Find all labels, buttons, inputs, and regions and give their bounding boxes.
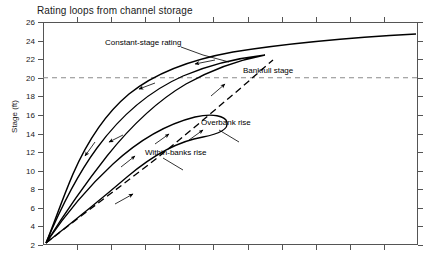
y-axis-tick-right bbox=[418, 134, 423, 135]
x-axis-tick bbox=[316, 245, 317, 250]
x-axis-tick bbox=[213, 245, 214, 250]
y-axis-tick-right bbox=[418, 152, 423, 153]
x-axis-tick bbox=[282, 245, 283, 250]
y-axis-tick-label: 26 bbox=[13, 18, 35, 27]
annotation-within-banks-rise: Within-banks rise bbox=[145, 148, 206, 157]
x-axis-tick bbox=[384, 245, 385, 250]
y-axis-tick-label: 8 bbox=[13, 185, 35, 194]
y-axis-tick-right bbox=[418, 171, 423, 172]
y-axis-tick-right bbox=[418, 59, 423, 60]
annotation-overbank-rise: Overbank rise bbox=[201, 118, 251, 127]
x-axis-tick bbox=[145, 245, 146, 250]
y-axis-tick bbox=[38, 245, 43, 246]
y-axis-tick-right bbox=[418, 208, 423, 209]
x-axis-tick bbox=[179, 245, 180, 250]
plot-area: 2468101214161820222426 bbox=[43, 22, 418, 245]
annotation-bankfull-stage: Bankfull stage bbox=[243, 66, 293, 75]
chart-title: Rating loops from channel storage bbox=[37, 5, 193, 16]
chart-figure: Rating loops from channel storage Stage … bbox=[0, 0, 433, 261]
x-axis-tick bbox=[350, 245, 351, 250]
y-axis-tick-right bbox=[418, 41, 423, 42]
y-axis-tick-right bbox=[418, 189, 423, 190]
y-axis-tick-label: 18 bbox=[13, 92, 35, 101]
y-axis-tick-label: 10 bbox=[13, 166, 35, 175]
annotation-constant-stage-rating: Constant-stage rating bbox=[105, 38, 182, 47]
y-axis-tick-label: 6 bbox=[13, 203, 35, 212]
y-axis-tick-right bbox=[418, 96, 423, 97]
y-axis-tick-label: 24 bbox=[13, 36, 35, 45]
y-axis-tick-label: 12 bbox=[13, 148, 35, 157]
y-axis-tick-right bbox=[418, 115, 423, 116]
y-axis-tick-right bbox=[418, 245, 423, 246]
y-axis-tick-label: 14 bbox=[13, 129, 35, 138]
curve-constant-stage-rating bbox=[46, 34, 416, 243]
y-axis-tick-label: 22 bbox=[13, 55, 35, 64]
y-axis-tick-label: 4 bbox=[13, 222, 35, 231]
y-axis-tick-right bbox=[418, 78, 423, 79]
x-axis-tick bbox=[77, 245, 78, 250]
y-axis-tick-label: 2 bbox=[13, 241, 35, 250]
flow-direction-arrows bbox=[85, 60, 225, 204]
curve-within-banks-rise bbox=[46, 115, 227, 243]
y-axis-tick-right bbox=[418, 226, 423, 227]
y-axis-tick-label: 20 bbox=[13, 73, 35, 82]
y-axis-tick-label: 16 bbox=[13, 110, 35, 119]
x-axis-tick bbox=[111, 245, 112, 250]
y-axis-tick-right bbox=[418, 22, 423, 23]
x-axis-tick bbox=[248, 245, 249, 250]
chart-svg bbox=[43, 22, 418, 245]
